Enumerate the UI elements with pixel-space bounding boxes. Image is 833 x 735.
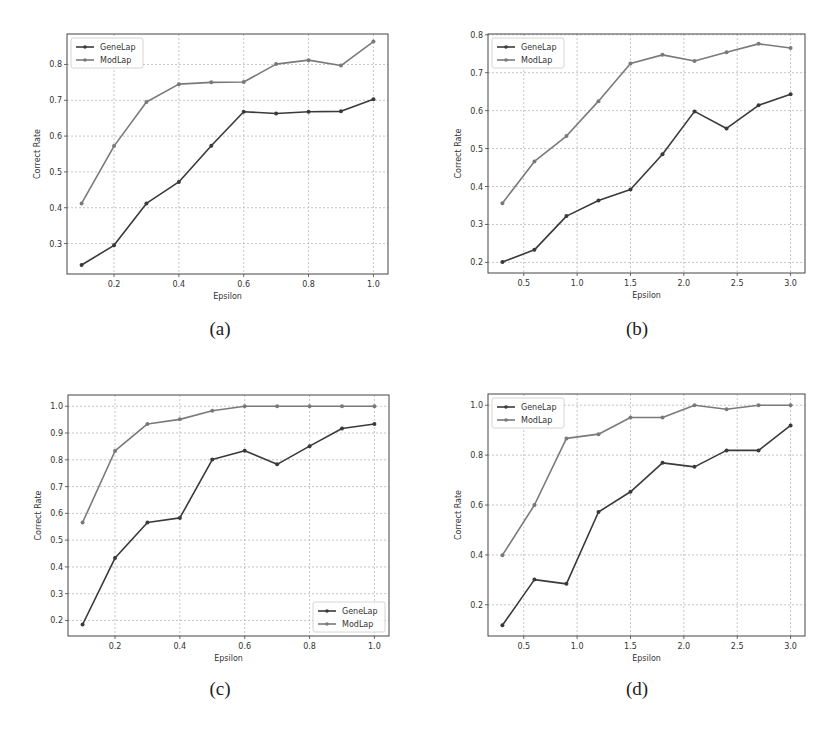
series-genelap (500, 423, 792, 627)
grid (68, 395, 389, 636)
y-tick-label: 0.9 (50, 429, 63, 438)
grid (67, 34, 388, 274)
data-point (112, 144, 116, 148)
y-axis-ticks: 0.20.30.40.50.60.70.80.91.0 (50, 402, 68, 625)
x-tick-label: 0.5 (517, 642, 530, 651)
data-point (757, 448, 761, 452)
x-axis-label: Epsilon (214, 654, 243, 663)
x-tick-label: 1.5 (624, 642, 637, 651)
y-tick-label: 0.5 (49, 168, 62, 177)
x-axis-ticks: 0.20.40.60.81.0 (109, 636, 381, 651)
chart-a: 0.20.40.60.81.00.30.40.50.60.70.8Epsilon… (0, 0, 420, 360)
x-tick-label: 2.0 (677, 279, 690, 288)
data-point (178, 516, 182, 520)
x-tick-label: 0.5 (517, 279, 530, 288)
data-point (339, 64, 343, 68)
y-tick-label: 1.0 (470, 401, 483, 410)
series-modlap (81, 404, 377, 524)
y-axis-ticks: 0.30.40.50.60.70.8 (49, 60, 67, 248)
y-tick-label: 0.5 (50, 536, 63, 545)
y-tick-label: 0.2 (50, 616, 63, 625)
data-point (757, 403, 761, 407)
data-point (243, 449, 247, 453)
data-point (144, 201, 148, 205)
x-axis-label: Epsilon (213, 292, 242, 301)
data-point (210, 458, 214, 462)
legend: GeneLapModLap (492, 398, 564, 428)
data-point (274, 62, 278, 66)
y-tick-label: 0.7 (470, 69, 483, 78)
y-tick-label: 0.8 (470, 451, 483, 460)
data-point (81, 622, 85, 626)
data-point (628, 415, 632, 419)
data-point (243, 404, 247, 408)
y-tick-label: 0.3 (49, 240, 62, 249)
x-tick-label: 1.0 (571, 642, 584, 651)
data-point (308, 444, 312, 448)
data-point (564, 436, 568, 440)
x-tick-label: 0.2 (108, 280, 121, 289)
y-tick-label: 0.4 (49, 204, 62, 213)
data-point (757, 42, 761, 46)
y-tick-label: 0.6 (470, 107, 483, 116)
data-point (693, 465, 697, 469)
data-point (340, 404, 344, 408)
plot-frame (488, 34, 805, 273)
x-tick-label: 0.2 (109, 642, 122, 651)
data-point (628, 188, 632, 192)
data-point (242, 110, 246, 114)
y-axis-label: Correct Rate (454, 128, 463, 178)
x-axis-ticks: 0.51.01.52.02.53.0 (517, 636, 797, 651)
y-axis-ticks: 0.20.30.40.50.60.70.8 (470, 31, 488, 268)
y-axis-ticks: 0.20.40.60.81.0 (470, 401, 488, 610)
data-point (661, 415, 665, 419)
chart-b: 0.51.01.52.02.53.00.20.30.40.50.60.70.8E… (420, 0, 833, 360)
y-tick-label: 0.4 (470, 183, 483, 192)
data-point (371, 97, 375, 101)
legend-label-modlap: ModLap (521, 416, 552, 425)
figure: 0.20.40.60.81.00.30.40.50.60.70.8Epsilon… (0, 0, 833, 735)
data-point (789, 423, 793, 427)
y-tick-label: 0.7 (50, 483, 63, 492)
x-tick-label: 0.6 (237, 280, 250, 289)
data-point (757, 103, 761, 107)
data-point (242, 80, 246, 84)
x-tick-label: 1.5 (624, 279, 637, 288)
data-point (210, 409, 214, 413)
data-point (725, 126, 729, 130)
x-tick-label: 2.0 (677, 642, 690, 651)
x-tick-label: 0.8 (303, 642, 316, 651)
data-point (661, 53, 665, 57)
data-point (307, 110, 311, 114)
data-point (596, 432, 600, 436)
y-tick-label: 0.2 (470, 601, 483, 610)
grid (488, 394, 805, 636)
data-point (275, 462, 279, 466)
legend-label-genelap: GeneLap (342, 607, 378, 616)
data-point (789, 92, 793, 96)
y-tick-label: 0.7 (49, 96, 62, 105)
caption-b: (b) (607, 318, 667, 340)
data-point (308, 404, 312, 408)
data-point (80, 263, 84, 267)
data-point (661, 461, 665, 465)
y-tick-label: 0.6 (50, 509, 63, 518)
data-point (275, 404, 279, 408)
data-point (596, 510, 600, 514)
x-tick-label: 0.4 (173, 642, 186, 651)
y-tick-label: 0.6 (470, 501, 483, 510)
data-point (209, 144, 213, 148)
data-point (113, 556, 117, 560)
data-point (564, 214, 568, 218)
y-tick-label: 0.4 (470, 551, 483, 560)
data-point (661, 152, 665, 156)
data-point (596, 99, 600, 103)
legend-label-genelap: GeneLap (521, 403, 557, 412)
plot-frame (67, 34, 388, 274)
grid (488, 34, 805, 273)
legend-label-genelap: GeneLap (521, 43, 557, 52)
data-point (532, 503, 536, 507)
y-tick-label: 0.3 (50, 590, 63, 599)
data-point (564, 582, 568, 586)
caption-a: (a) (190, 318, 250, 340)
